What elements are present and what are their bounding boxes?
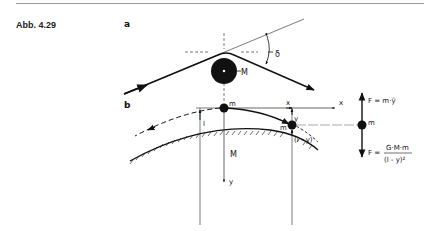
x-axis-label: x bbox=[339, 99, 343, 107]
height-label: l bbox=[203, 120, 205, 128]
gravity-force-numerator: G·M·m bbox=[386, 144, 409, 152]
y-axis-label: y bbox=[229, 178, 233, 186]
incoming-arrow bbox=[124, 85, 147, 94]
y-offset-label: y bbox=[294, 115, 298, 123]
panel-b-label: b bbox=[124, 100, 131, 110]
gravity-force-prefix: F = bbox=[368, 149, 380, 157]
panel-a-label: a bbox=[124, 19, 130, 29]
mass-m-start-label: m bbox=[229, 100, 236, 108]
falling-trajectory bbox=[226, 108, 289, 124]
x-position-label: x bbox=[286, 99, 290, 107]
gravity-force-denominator: (l - y)² bbox=[384, 156, 406, 164]
gravity-diagram: a δ M b x x y l m m y (l - y) bbox=[0, 0, 424, 231]
inertial-force-label: F = m·ÿ bbox=[368, 97, 396, 105]
mass-m-start bbox=[220, 104, 229, 113]
planet-mass-label: M bbox=[230, 150, 237, 159]
mass-m-current-label: m bbox=[280, 124, 287, 132]
deflection-angle-arc bbox=[266, 36, 269, 64]
deflection-angle-label: δ bbox=[275, 50, 280, 59]
force-diagram-mass bbox=[358, 121, 367, 130]
force-diagram-mass-label: m bbox=[368, 119, 375, 127]
central-mass-label: M bbox=[241, 68, 248, 77]
